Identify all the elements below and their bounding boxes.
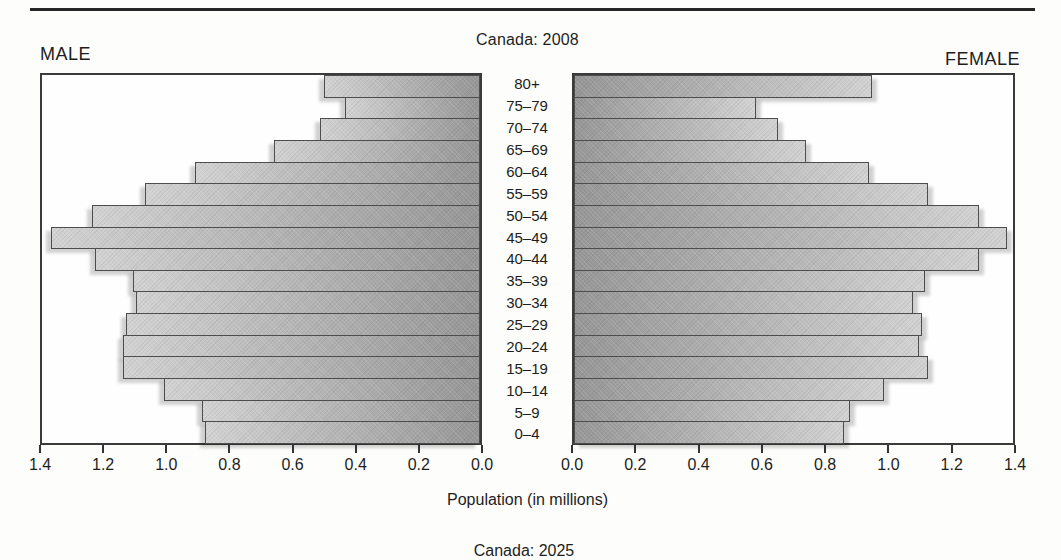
male-bar-5–9 [202, 400, 480, 423]
next-figure-caption-cutoff: Canada: 2025 [0, 542, 1048, 560]
male-header-label: MALE [40, 44, 91, 65]
female-bar-60–64 [574, 162, 869, 185]
male-bar-0–4 [205, 421, 480, 444]
tick-mark-0.2 [418, 445, 420, 453]
age-label-40–44: 40–44 [482, 248, 572, 270]
tick-label-0.6: 0.6 [281, 456, 303, 474]
female-plot-panel [572, 73, 1015, 445]
female-bar-50–54 [574, 205, 979, 228]
tick-label-0.8: 0.8 [814, 456, 836, 474]
age-label-65–69: 65–69 [482, 139, 572, 161]
female-bar-5–9 [574, 400, 850, 423]
tick-mark-0.0 [481, 445, 483, 453]
female-bar-25–29 [574, 313, 922, 336]
male-bars [42, 75, 480, 443]
age-label-35–39: 35–39 [482, 270, 572, 292]
female-bar-40–44 [574, 248, 979, 271]
female-bar-30–34 [574, 291, 913, 314]
tick-mark-1.2 [951, 445, 953, 453]
male-bar-50–54 [92, 205, 480, 228]
female-bar-80+ [574, 75, 872, 98]
male-x-axis: 1.41.21.00.80.60.40.20.0 [40, 445, 482, 479]
tick-mark-0.6 [761, 445, 763, 453]
tick-mark-0.6 [292, 445, 294, 453]
tick-mark-1.0 [165, 445, 167, 453]
page-top-rule [30, 8, 1035, 11]
tick-label-0.4: 0.4 [345, 456, 367, 474]
male-bar-65–69 [274, 140, 480, 163]
tick-label-1.0: 1.0 [155, 456, 177, 474]
tick-mark-0.0 [571, 445, 573, 453]
chart-title: Canada: 2008 [0, 31, 1055, 49]
male-bar-70–74 [320, 118, 480, 141]
age-label-20–24: 20–24 [482, 336, 572, 358]
age-label-0–4: 0–4 [482, 423, 572, 445]
female-header-label: FEMALE [945, 49, 1020, 70]
tick-label-1.2: 1.2 [92, 456, 114, 474]
age-group-axis: 80+75–7970–7465–6960–6455–5950–5445–4940… [482, 73, 572, 445]
female-bar-0–4 [574, 421, 844, 444]
female-x-axis: 0.00.20.40.60.81.01.21.4 [572, 445, 1015, 479]
tick-mark-0.8 [228, 445, 230, 453]
male-plot-panel [40, 73, 482, 445]
tick-label-1.4: 1.4 [1004, 456, 1026, 474]
female-bar-55–59 [574, 183, 928, 206]
tick-label-1.0: 1.0 [877, 456, 899, 474]
tick-label-0.2: 0.2 [624, 456, 646, 474]
tick-mark-0.4 [698, 445, 700, 453]
female-bar-15–19 [574, 356, 928, 379]
age-label-5–9: 5–9 [482, 401, 572, 423]
age-label-55–59: 55–59 [482, 182, 572, 204]
male-bar-60–64 [195, 162, 480, 185]
male-bar-55–59 [145, 183, 480, 206]
age-label-45–49: 45–49 [482, 226, 572, 248]
tick-label-0.8: 0.8 [218, 456, 240, 474]
tick-mark-1.4 [1014, 445, 1016, 453]
male-bar-45–49 [51, 227, 480, 250]
female-bar-10–14 [574, 378, 884, 401]
age-label-10–14: 10–14 [482, 379, 572, 401]
female-bar-20–24 [574, 335, 919, 358]
tick-label-0.0: 0.0 [561, 456, 583, 474]
male-bar-20–24 [123, 335, 480, 358]
age-label-80+: 80+ [482, 73, 572, 95]
x-axis-title: Population (in millions) [0, 491, 1055, 509]
age-label-75–79: 75–79 [482, 95, 572, 117]
age-label-70–74: 70–74 [482, 117, 572, 139]
tick-mark-0.8 [824, 445, 826, 453]
male-bar-10–14 [164, 378, 480, 401]
age-label-30–34: 30–34 [482, 292, 572, 314]
female-bars [574, 75, 1013, 443]
tick-mark-1.2 [102, 445, 104, 453]
female-bar-35–39 [574, 270, 925, 293]
tick-label-0.2: 0.2 [408, 456, 430, 474]
tick-mark-1.0 [887, 445, 889, 453]
male-bar-40–44 [95, 248, 480, 271]
age-label-15–19: 15–19 [482, 357, 572, 379]
female-bar-70–74 [574, 118, 778, 141]
male-bar-30–34 [136, 291, 480, 314]
age-label-25–29: 25–29 [482, 314, 572, 336]
tick-mark-1.4 [39, 445, 41, 453]
tick-mark-0.2 [634, 445, 636, 453]
female-bar-45–49 [574, 227, 1007, 250]
tick-label-1.4: 1.4 [29, 456, 51, 474]
tick-label-0.4: 0.4 [687, 456, 709, 474]
age-label-50–54: 50–54 [482, 204, 572, 226]
male-bar-80+ [324, 75, 480, 98]
male-bar-25–29 [126, 313, 480, 336]
male-bar-15–19 [123, 356, 480, 379]
tick-label-0.0: 0.0 [471, 456, 493, 474]
male-bar-35–39 [133, 270, 480, 293]
age-label-60–64: 60–64 [482, 161, 572, 183]
female-bar-75–79 [574, 97, 756, 120]
tick-label-1.2: 1.2 [941, 456, 963, 474]
tick-label-0.6: 0.6 [751, 456, 773, 474]
female-bar-65–69 [574, 140, 806, 163]
male-bar-75–79 [345, 97, 480, 120]
tick-mark-0.4 [355, 445, 357, 453]
